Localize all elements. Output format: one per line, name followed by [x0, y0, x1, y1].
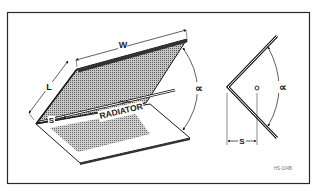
angle-dimension: ∝	[183, 48, 205, 130]
svg-text:S: S	[239, 137, 245, 146]
svg-text:∝: ∝	[279, 81, 287, 93]
svg-text:S: S	[49, 116, 55, 125]
side-spacing-dimension: S	[228, 136, 256, 146]
figure-frame	[8, 13, 310, 184]
svg-text:∝: ∝	[195, 82, 203, 94]
perspective-view: RADIATOR W L S ∝	[29, 30, 205, 165]
side-angle-dimension: ∝	[268, 47, 289, 126]
figure-id-label: HS-104B	[274, 166, 292, 171]
svg-text:W: W	[119, 40, 128, 50]
corner-reflector-diagram: RADIATOR W L S ∝	[0, 0, 317, 191]
side-view: S ∝	[227, 36, 289, 146]
radiator-marker	[255, 86, 259, 90]
svg-text:L: L	[46, 82, 52, 92]
